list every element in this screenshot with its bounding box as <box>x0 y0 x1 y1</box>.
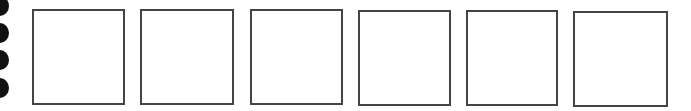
empty-box-3 <box>250 9 343 105</box>
empty-box-4 <box>358 10 451 106</box>
binding-hole-icon <box>0 78 9 98</box>
empty-box-5 <box>466 10 558 106</box>
binding-hole-icon <box>0 50 9 70</box>
empty-box-6 <box>573 11 668 107</box>
binding-hole-icon <box>0 0 9 16</box>
empty-box-2 <box>140 9 234 105</box>
binding-hole-icon <box>0 23 9 43</box>
empty-box-1 <box>32 9 125 105</box>
